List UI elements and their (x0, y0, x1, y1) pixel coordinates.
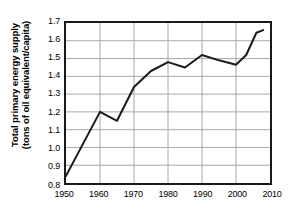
data-series-line (66, 23, 270, 183)
plot-area (64, 21, 272, 185)
y-axis-tick-label: 1.4 (38, 71, 60, 80)
y-axis-tick-label: 1.3 (38, 89, 60, 98)
energy-supply-line-chart: Total primary energy supply (tons of oil… (0, 0, 289, 213)
y-axis-tick-label: 1.2 (38, 108, 60, 117)
x-axis-tick-label: 1950 (47, 190, 81, 199)
series-polyline (66, 30, 263, 176)
y-axis-tick-label: 1.6 (38, 35, 60, 44)
x-axis-tick-label: 1990 (186, 190, 220, 199)
x-axis-tick-label: 2010 (255, 190, 289, 199)
x-axis-tick-label: 1970 (116, 190, 150, 199)
x-axis-tick-labels: 1950196019701980199020002010 (0, 190, 289, 204)
y-axis-tick-label: 1.1 (38, 126, 60, 135)
y-axis-title: Total primary energy supply (tons of oil… (3, 0, 37, 171)
y-axis-title-line-2: (tons of oil equivalent/capita) (20, 21, 32, 149)
y-axis-tick-label: 1.5 (38, 53, 60, 62)
y-axis-tick-label: 0.9 (38, 162, 60, 171)
y-axis-tick-label: 1.7 (38, 17, 60, 26)
y-axis-tick-label: 1.0 (38, 144, 60, 153)
x-axis-tick-label: 2000 (220, 190, 254, 199)
y-axis-title-line-1: Total primary energy supply (9, 23, 21, 147)
x-axis-tick-label: 1980 (151, 190, 185, 199)
y-axis-tick-labels: 0.80.91.01.11.21.31.41.51.61.7 (38, 0, 60, 213)
x-axis-tick-label: 1960 (82, 190, 116, 199)
